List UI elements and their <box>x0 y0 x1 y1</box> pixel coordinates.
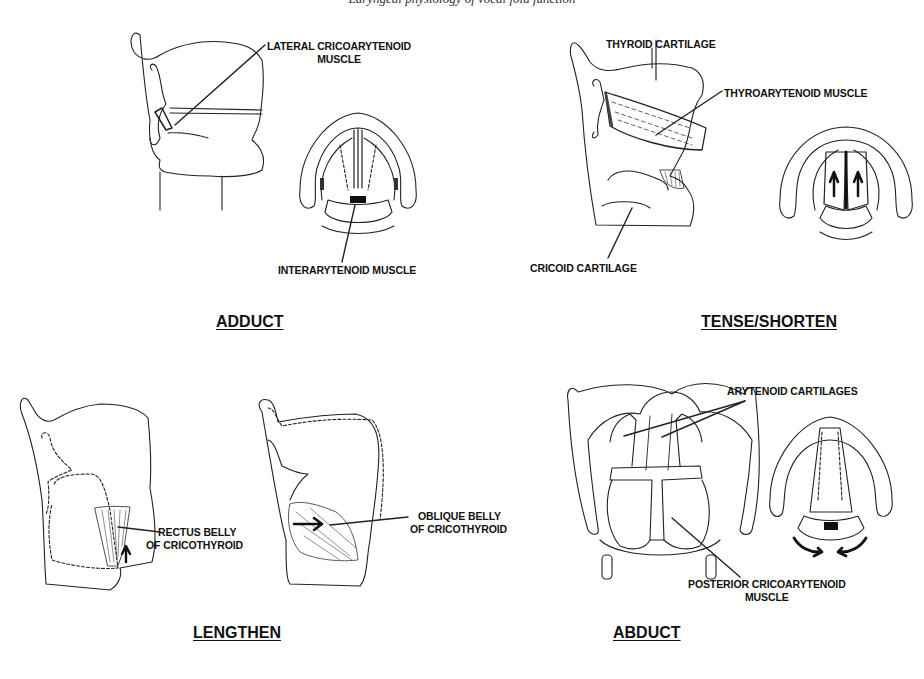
abduct-superior-larynx-drawing <box>770 417 893 556</box>
tense-superior-larynx-drawing <box>780 127 913 240</box>
label-line: OF CRICOTHYROID <box>146 539 243 552</box>
label-thyroarytenoid-muscle: THYROARYTENOID MUSCLE <box>724 87 867 100</box>
lengthen-rectus-larynx-drawing <box>20 398 160 590</box>
label-cricoid-cartilage: CRICOID CARTILAGE <box>530 262 637 275</box>
lengthen-oblique-larynx-drawing <box>259 400 408 586</box>
label-line: POSTERIOR CRICOARYTENOID <box>688 578 846 591</box>
label-interarytenoid-muscle: INTERARYTENOID MUSCLE <box>278 264 416 277</box>
label-oblique-belly-of-cricothyroid: OBLIQUE BELLY OF CRICOTHYROID <box>410 510 507 536</box>
panel-title-tense-shorten: TENSE/SHORTEN <box>701 313 837 331</box>
label-line: MUSCLE <box>267 53 411 66</box>
label-rectus-belly-of-cricothyroid: RECTUS BELLY OF CRICOTHYROID <box>146 526 243 552</box>
label-thyroid-cartilage: THYROID CARTILAGE <box>606 38 716 51</box>
label-arytenoid-cartilages: ARYTENOID CARTILAGES <box>727 385 858 398</box>
tense-lateral-larynx-drawing <box>570 40 722 258</box>
panel-title-adduct: ADDUCT <box>216 313 284 331</box>
abduct-posterior-larynx-drawing <box>568 384 760 580</box>
label-line: OF CRICOTHYROID <box>410 523 507 536</box>
adduct-superior-larynx-drawing <box>300 113 417 262</box>
label-line: LATERAL CRICOARYTENOID <box>267 40 411 53</box>
label-lateral-cricoarytenoid-muscle: LATERAL CRICOARYTENOID MUSCLE <box>267 40 411 66</box>
label-line: OBLIQUE BELLY <box>410 510 507 523</box>
label-line: MUSCLE <box>688 591 846 604</box>
label-posterior-cricoarytenoid-muscle: POSTERIOR CRICOARYTENOID MUSCLE <box>688 578 846 604</box>
panel-title-lengthen: LENGTHEN <box>193 624 281 642</box>
adduct-lateral-larynx-drawing <box>131 33 265 210</box>
label-line: RECTUS BELLY <box>146 526 243 539</box>
panel-title-abduct: ABDUCT <box>613 624 681 642</box>
